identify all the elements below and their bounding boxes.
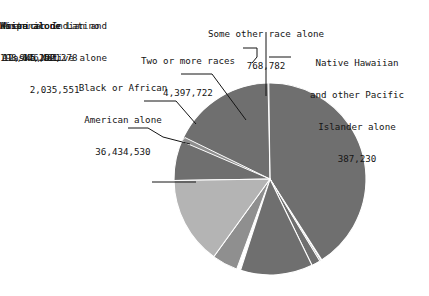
pie-label-value: 36,434,530 [60, 147, 186, 158]
pie-label-white-alone: White alone 198,176,991 [0, 0, 61, 85]
pie-label-name-line3: Islander alone [296, 122, 418, 133]
pie-label-name-line2: and other Pacific [296, 90, 418, 101]
pie-label-name-line1: Native Hawaiian [296, 58, 418, 69]
pie-label-name: White alone [0, 21, 61, 32]
pie-label-native-hawaiian-pacific-islander-alone: Native Hawaiian and other Pacific Island… [296, 37, 418, 185]
pie-label-value: 387,230 [296, 154, 418, 165]
pie-chart: Some other race alone 768,782 Two or mor… [0, 0, 429, 296]
pie-label-value: 2,035,551 [2, 85, 107, 96]
pie-label-value: 198,176,991 [0, 53, 61, 64]
pie-label-name-line2: American alone [60, 115, 186, 126]
